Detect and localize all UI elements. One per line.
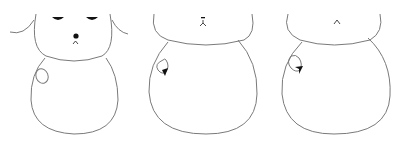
right-eye [86, 17, 98, 20]
drawing-canvas [0, 0, 396, 143]
head [34, 14, 111, 61]
mouth [73, 41, 78, 44]
right-ear [112, 20, 128, 34]
arrow-head [295, 66, 303, 74]
left-eye [52, 17, 64, 20]
body [282, 38, 390, 134]
mouth [334, 20, 340, 24]
mouth [200, 20, 206, 26]
left-ear [10, 20, 34, 33]
body [149, 40, 257, 134]
figure-3 [282, 14, 390, 134]
mark [201, 17, 205, 18]
head [287, 14, 381, 45]
nose [73, 33, 78, 38]
figure-2 [149, 14, 257, 134]
arrow-head [162, 68, 168, 76]
arm-loop [34, 67, 50, 85]
figure-1 [10, 14, 128, 134]
